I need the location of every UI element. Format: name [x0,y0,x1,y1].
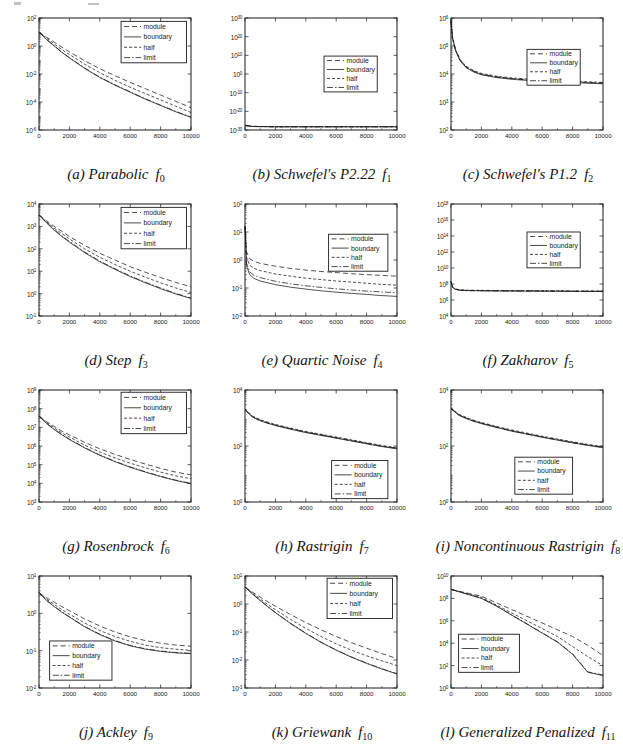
legend-label-boundary: boundary [144,33,173,41]
plot-caption: (b) Schwefel's P2.22 f1 [232,166,412,184]
legend-label-half: half [144,44,155,51]
caption-text: (f) Zakharov [482,352,557,369]
legend-label-module: module [347,57,370,64]
plot-svg: moduleboundaryhalflimit [415,380,615,528]
legend-label-boundary: boundary [351,245,380,253]
plot-canvas-generalized-penalized: 1010108106104102100020004000600080001000… [415,566,615,714]
subfigure-schwefel-p222: 10301020101010010-1010-2010-300200040006… [206,8,412,194]
plot-svg: moduleboundaryhalflimit [3,380,203,528]
subfigure-parabolic: 10210010-210-410-60200040006000800010000… [0,8,206,194]
plot-caption: (d) Step f3 [26,352,206,370]
plot-canvas-schwefel-p222: 10301020101010010-1010-2010-300200040006… [209,8,409,156]
plot-caption: (l) Generalized Penalized f11 [438,724,618,742]
caption-function-symbol: f1 [382,166,391,184]
plot-canvas-rosenbrock: 1091081071061051041030200040006000800010… [3,380,203,528]
caption-text: (c) Schwefel's P1.2 [463,166,577,183]
legend-label-module: module [351,235,374,242]
caption-function-symbol: f5 [564,352,573,370]
legend-label-module: module [537,458,560,465]
legend-label-boundary: boundary [550,59,579,67]
plot-canvas-rastrigin: 1041021000200040006000800010000modulebou… [209,380,409,528]
plot-svg: moduleboundaryhalflimit [3,566,203,714]
plot-canvas-parabolic: 10210010-210-410-60200040006000800010000… [3,8,203,156]
legend-label-half: half [550,251,561,258]
subfigure-generalized-penalized: 1010108106104102100020004000600080001000… [412,566,618,752]
legend-label-half: half [347,75,358,82]
subfigure-schwefel-p12: 1061051041031020200040006000800010000mod… [412,8,618,194]
caption-function-symbol: f9 [144,724,153,742]
legend-label-boundary: boundary [72,652,101,660]
plot-caption: (h) Rastrigin f7 [232,538,412,556]
caption-text: (a) Parabolic [67,166,148,183]
caption-text: (k) Griewank [272,724,352,741]
plot-canvas-quartic-noise: 10210110010-110-20200040006000800010000m… [209,194,409,342]
legend-label-boundary: boundary [144,404,173,412]
legend-label-limit: limit [481,664,493,671]
legend-label-module: module [144,394,167,401]
legend-label-limit: limit [72,672,84,679]
legend-label-module: module [72,642,95,649]
plot-canvas-ackley: 10110010-110-20200040006000800010000modu… [3,566,203,714]
subfigure-rastrigin: 1041021000200040006000800010000modulebou… [206,380,412,566]
caption-function-symbol: f11 [602,724,616,742]
legend-label-module: module [481,635,504,642]
subfigure-rosenbrock: 1091081071061051041030200040006000800010… [0,380,206,566]
caption-function-symbol: f4 [373,352,382,370]
subfigure-ackley: 10110010-110-20200040006000800010000modu… [0,566,206,752]
legend-label-half: half [144,230,155,237]
plot-svg: moduleboundaryhalflimit [3,8,203,156]
plot-svg: moduleboundaryhalflimit [3,194,203,342]
legend-label-module: module [350,580,373,587]
caption-text: (l) Generalized Penalized [441,724,595,741]
caption-text: (e) Quartic Noise [261,352,366,369]
legend: moduleboundaryhalflimit [121,207,186,248]
legend-label-limit: limit [347,84,359,91]
legend-label-limit: limit [144,54,156,61]
legend: moduleboundaryhalflimit [515,457,573,494]
subfigure-noncontinuous-rastrigin: 1041021000200040006000800010000modulebou… [412,380,618,566]
legend-label-half: half [144,415,155,422]
legend-label-module: module [550,50,573,57]
legend-label-half: half [350,600,361,607]
caption-text: (i) Noncontinuous Rastrigin [436,538,604,555]
legend-label-boundary: boundary [481,645,510,653]
legend-label-boundary: boundary [144,219,173,227]
caption-text: (d) Step [84,352,131,369]
plot-svg: moduleboundaryhalflimit [209,8,409,156]
legend-label-limit: limit [350,610,362,617]
subfigure-step: 10410310210110010-1020004000600080001000… [0,194,206,380]
subfigure-zakharov: 1018101610141012101010810610402000400060… [412,194,618,380]
caption-function-symbol: f7 [359,538,368,556]
scan-crop-artifact [10,1,130,6]
caption-text: (h) Rastrigin [275,538,352,555]
plot-canvas-step: 10410310210110010-1020004000600080001000… [3,194,203,342]
legend-label-half: half [354,481,365,488]
legend-label-boundary: boundary [354,471,383,479]
plot-caption: (k) Griewank f10 [232,724,412,742]
legend-label-boundary: boundary [350,590,379,598]
legend-label-half: half [351,254,362,261]
caption-text: (j) Ackley [79,724,137,741]
legend-label-boundary: boundary [347,66,376,74]
legend: moduleboundaryhalflimit [121,21,186,62]
legend-label-half: half [72,662,83,669]
legend: moduleboundaryhalflimit [324,56,377,92]
legend: moduleboundaryhalflimit [329,234,388,271]
plot-caption: (i) Noncontinuous Rastrigin f8 [438,538,618,556]
plot-caption: (e) Quartic Noise f4 [232,352,412,370]
caption-function-symbol: f3 [138,352,147,370]
legend-label-half: half [550,68,561,75]
plot-svg: moduleboundaryhalflimit [209,380,409,528]
legend: moduleboundaryhalflimit [50,641,112,680]
legend-label-half: half [481,654,492,661]
legend: moduleboundaryhalflimit [459,634,520,672]
legend-label-half: half [537,477,548,484]
caption-function-symbol: f2 [584,166,593,184]
plot-svg: moduleboundaryhalflimit [415,194,615,342]
plot-caption: (g) Rosenbrock f6 [26,538,206,556]
plot-caption: (f) Zakharov f5 [438,352,618,370]
caption-function-symbol: f6 [161,538,170,556]
caption-text: (g) Rosenbrock [62,538,154,555]
caption-function-symbol: f10 [358,724,372,742]
